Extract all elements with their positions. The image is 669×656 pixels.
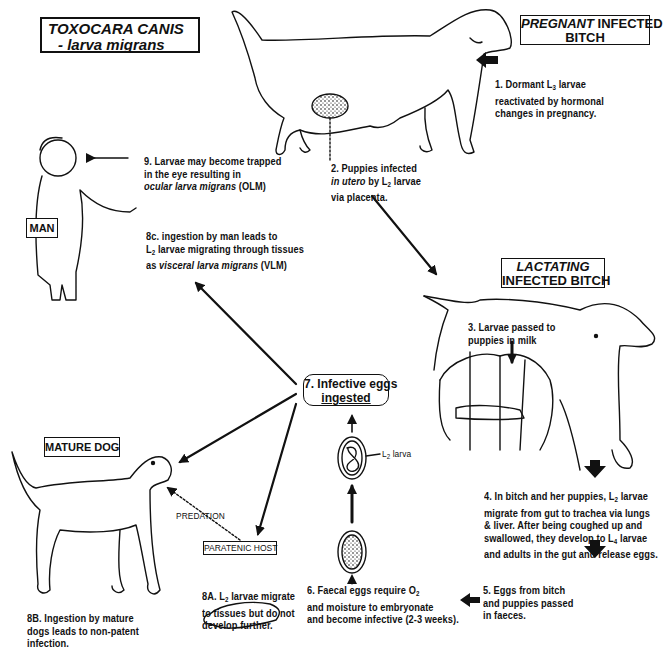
block-arrow-step1 — [476, 52, 498, 68]
arrow-eggs-to-paratenic-host — [258, 404, 296, 534]
mature-dog-illustration — [12, 452, 171, 594]
step2-text: 2. Puppies infected in utero by L2 larva… — [331, 162, 421, 204]
toxocara-lifecycle-diagram: TOXOCARA CANIS - larva migrans PREGNANT … — [0, 0, 669, 656]
block-arrow-down-1 — [584, 460, 606, 478]
lactating-line2: INFECTED BITCH — [502, 274, 604, 288]
lactating-host-label: LACTATING INFECTED BITCH — [501, 258, 605, 288]
arrow-pregnant-to-lactating — [372, 196, 436, 274]
step8a-text: 8A. L2 larvae migrate to tissues but do … — [202, 590, 295, 632]
step6-text: 6. Faecal eggs require O2 and moisture t… — [307, 584, 459, 626]
lactating-line1: LACTATING — [502, 260, 604, 274]
pregnant-line2: BITCH — [521, 31, 649, 45]
step8b-text: 8B. Ingestion by maturedogs leads to non… — [27, 612, 139, 650]
l2-larva-coil-icon — [347, 447, 359, 471]
title-box: TOXOCARA CANIS - larva migrans — [40, 17, 200, 53]
title-line1: TOXOCARA CANIS — [48, 21, 198, 37]
man-host-label: MAN — [26, 218, 58, 238]
step3-text: 3. Larvae passed topuppies in milk — [468, 321, 555, 346]
pregnant-dog-illustration — [232, 10, 511, 155]
predation-label: PREDATION — [176, 510, 225, 523]
step5-text: 5. Eggs from bitchand puppies passedin f… — [483, 584, 573, 622]
step8c-text: 8c. ingestion by man leads to L2 larvae … — [146, 230, 304, 272]
step7-infective-eggs-box: 7. Infective eggs ingested — [303, 374, 389, 406]
mature-dog-host-label: MATURE DOG — [44, 437, 120, 457]
step1-text: 1. Dormant L3 larvae reactivated by horm… — [495, 78, 604, 120]
block-arrow-left-step5 — [460, 593, 480, 607]
step9-text: 9. Larvae may become trappedin the eye r… — [144, 155, 282, 193]
step4-text: 4. In bitch and her puppies, L2 larvae m… — [484, 490, 658, 561]
arrow-eggs-to-man — [196, 283, 296, 384]
step7-line2: ingested — [304, 391, 388, 405]
paratenic-host-label: PARATENIC HOST — [203, 541, 277, 555]
pregnant-rest: INFECTED — [594, 16, 663, 31]
arrow-eggs-to-mature-dog — [180, 394, 296, 462]
egg-l2-larva-label: L2 larva — [382, 448, 411, 464]
uterus-puppies-icon — [312, 94, 348, 118]
step7-line1: 7. Infective eggs — [304, 377, 388, 391]
pregnant-italic: PREGNANT — [521, 16, 594, 31]
title-line2: - larva migrans — [48, 37, 198, 53]
pregnant-host-label: PREGNANT INFECTED BITCH — [520, 15, 650, 45]
